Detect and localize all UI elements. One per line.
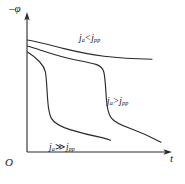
x-axis-label: t	[170, 152, 173, 164]
plot-svg	[0, 0, 185, 184]
curve-label-ja-gg-jpp: ja≫jpp	[49, 141, 75, 152]
figure-canvas: –φ O t ja<jpp ja>jpp ja≫jpp	[0, 0, 185, 184]
y-axis-label: –φ	[9, 2, 21, 14]
y-axis-symbol: φ	[15, 2, 21, 14]
curve-label-mid-sub2: pp	[122, 99, 128, 106]
curve-label-top-sub2: pp	[94, 36, 100, 43]
curve-label-bot-operator: ≫	[55, 142, 66, 152]
origin-label: O	[5, 156, 13, 168]
curve-group	[28, 40, 162, 142]
curve-label-bot-sub2: pp	[69, 145, 75, 152]
curve-label-ja-gt-jpp: ja>jpp	[107, 96, 128, 106]
y-axis	[24, 12, 29, 152]
curve-label-ja-lt-jpp: ja<jpp	[79, 33, 100, 43]
